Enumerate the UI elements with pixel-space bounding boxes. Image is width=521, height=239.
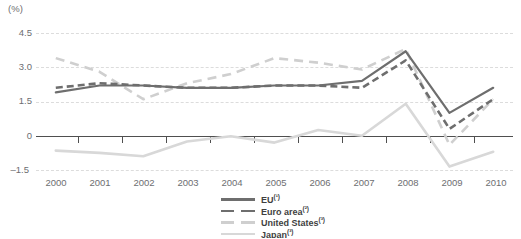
- y-axis-tick-0: 0: [2, 130, 32, 141]
- x-axis-tick-2004: 2004: [209, 177, 255, 188]
- y-axis-tick-3_0: 3.0: [2, 61, 32, 72]
- x-axis-tick-2010: 2010: [473, 177, 519, 188]
- gridline-neg1_5: [36, 170, 513, 171]
- legend-item-euro-area[interactable]: Euro area(²): [221, 206, 325, 217]
- x-axis-tick-2005: 2005: [253, 177, 299, 188]
- x-axis-tick-2008: 2008: [385, 177, 431, 188]
- y-axis-unit-label: (%): [8, 3, 23, 14]
- x-axis-tick-2002: 2002: [121, 177, 167, 188]
- series-lines: [36, 33, 513, 170]
- legend-label-japan: Japan(³): [261, 228, 294, 238]
- x-axis-tick-2001: 2001: [77, 177, 123, 188]
- legend-label-united-states: United States(³): [261, 216, 325, 228]
- x-axis-tick-2009: 2009: [429, 177, 475, 188]
- line-chart: (%) 4.5 3.0 1.5 0 –1.5 2000 2001 2002 20…: [0, 0, 521, 238]
- series-line-eu: [56, 51, 493, 113]
- y-axis-tick-1_5: 1.5: [2, 95, 32, 106]
- legend: EU(¹) Euro area(²) United States(³) Japa…: [221, 194, 325, 238]
- y-axis-tick-neg1_5: –1.5: [0, 164, 29, 175]
- x-axis-tick-2003: 2003: [165, 177, 211, 188]
- y-axis-tick-4_5: 4.5: [2, 27, 32, 38]
- series-line-japan: [56, 104, 493, 167]
- legend-swatch-japan: [221, 229, 255, 238]
- legend-label-eu: EU(¹): [261, 193, 280, 205]
- x-axis-tick-2006: 2006: [297, 177, 343, 188]
- x-axis-tick-2007: 2007: [341, 177, 387, 188]
- plot-area: [36, 33, 513, 170]
- legend-item-eu[interactable]: EU(¹): [221, 194, 325, 205]
- legend-swatch-euro-area: [221, 206, 255, 216]
- x-axis-tick-2000: 2000: [33, 177, 79, 188]
- legend-swatch-eu: [221, 194, 255, 204]
- legend-label-euro-area: Euro area(²): [261, 205, 309, 217]
- series-line-euro-area: [56, 60, 493, 128]
- legend-swatch-united-states: [221, 217, 255, 227]
- legend-item-united-states[interactable]: United States(³): [221, 217, 325, 228]
- legend-item-japan[interactable]: Japan(³): [221, 229, 325, 239]
